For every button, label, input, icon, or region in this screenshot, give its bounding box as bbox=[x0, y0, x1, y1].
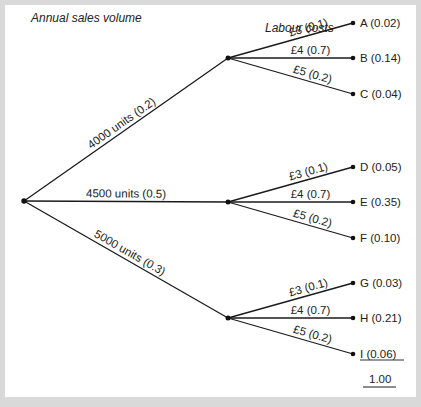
outcome-label-C: C (0.04) bbox=[360, 88, 402, 100]
branch-label-sales-volume: 5000 units (0.3) bbox=[92, 227, 167, 277]
outcome-node-dot bbox=[351, 56, 356, 61]
root-node-dot bbox=[21, 198, 26, 203]
outcome-node-dot bbox=[351, 281, 356, 286]
outcome-node-dot bbox=[351, 236, 356, 241]
outcome-label-D: D (0.05) bbox=[360, 161, 402, 173]
chance-node-dot bbox=[226, 56, 231, 61]
branch-label-labour-cost: £4 (0.7) bbox=[291, 304, 331, 316]
outcome-label-F: F (0.10) bbox=[360, 232, 400, 244]
outcome-label-E: E (0.35) bbox=[360, 196, 401, 208]
total-probability: 1.00 bbox=[369, 373, 391, 385]
outcome-label-B: B (0.14) bbox=[360, 52, 401, 64]
branch-label-labour-cost: £4 (0.7) bbox=[291, 188, 331, 200]
branch-label-labour-cost: £4 (0.7) bbox=[291, 44, 331, 56]
outcome-node-dot bbox=[351, 92, 356, 97]
branch-line-level2 bbox=[228, 318, 353, 354]
branch-label-sales-volume: 4000 units (0.2) bbox=[85, 95, 157, 151]
chance-node-dot bbox=[226, 316, 231, 321]
branch-line-level2 bbox=[228, 202, 353, 238]
outcome-node-dot bbox=[351, 200, 356, 205]
branch-line-level1 bbox=[24, 201, 228, 318]
outcome-node-dot bbox=[351, 352, 356, 357]
branch-line-level1 bbox=[24, 58, 228, 201]
chance-node-dot bbox=[226, 200, 231, 205]
outcome-node-dot bbox=[351, 21, 356, 26]
tree-svg: Annual sales volume Labour costs 4000 un… bbox=[5, 5, 416, 397]
outcome-label-A: A (0.02) bbox=[360, 17, 400, 29]
outcome-label-G: G (0.03) bbox=[360, 277, 402, 289]
header-sales-volume: Annual sales volume bbox=[30, 11, 142, 25]
outcome-node-dot bbox=[351, 165, 356, 170]
branch-line-level2 bbox=[228, 58, 353, 94]
outcome-label-H: H (0.21) bbox=[360, 312, 402, 324]
outcome-label-I: I (0.06) bbox=[360, 348, 397, 360]
branch-label-sales-volume: 4500 units (0.5) bbox=[86, 187, 166, 199]
outcome-node-dot bbox=[351, 316, 356, 321]
branch-line-level1 bbox=[24, 201, 228, 202]
probability-tree-diagram: Annual sales volume Labour costs 4000 un… bbox=[5, 5, 416, 397]
